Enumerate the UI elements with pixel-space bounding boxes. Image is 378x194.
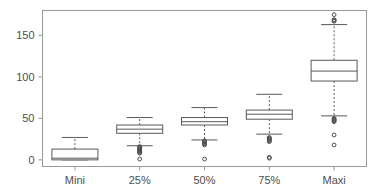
y-axis-tick-label: 100 (16, 71, 34, 83)
y-axis-tick-label: 150 (16, 29, 34, 41)
boxplot-canvas: 050100150Mini25%50%75%Maxi (0, 0, 378, 194)
y-axis-tick-label: 0 (28, 154, 34, 166)
x-axis-tick-label: Maxi (322, 174, 345, 186)
x-axis-tick-label: Mini (65, 174, 85, 186)
y-axis-tick-label: 50 (22, 112, 34, 124)
boxplot-figure: 050100150Mini25%50%75%Maxi (0, 0, 378, 194)
x-axis-tick-label: 50% (193, 174, 215, 186)
x-axis-tick-label: 25% (129, 174, 151, 186)
x-axis-tick-label: 75% (258, 174, 280, 186)
